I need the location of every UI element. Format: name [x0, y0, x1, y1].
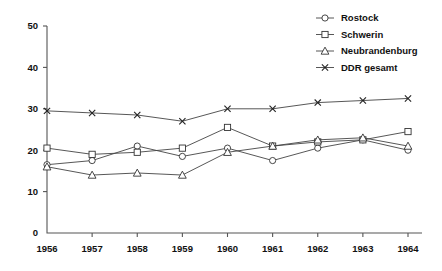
data-point-circle — [179, 153, 185, 159]
x-axis-tick-label: 1963 — [352, 243, 373, 254]
data-point-circle — [270, 157, 276, 163]
x-axis-tick-label: 1960 — [217, 243, 238, 254]
x-axis-tick-label: 1961 — [262, 243, 284, 254]
series-line — [47, 98, 408, 121]
x-axis-tick-label: 1956 — [36, 243, 57, 254]
x-axis-tick-labels: 195619571958195919601961196219631964 — [36, 243, 419, 254]
legend-item-schwerin: Schwerin — [316, 29, 383, 40]
data-point-circle — [134, 143, 140, 149]
data-point-triangle — [133, 169, 141, 176]
data-point-square — [179, 145, 185, 151]
chart-container: 01020304050 1956195719581959196019611962… — [0, 0, 442, 271]
legend-item-ddr-gesamt: DDR gesamt — [316, 62, 398, 73]
data-point-circle — [89, 157, 95, 163]
y-axis-tick-label: 40 — [27, 62, 38, 73]
y-axis-tick-labels: 01020304050 — [27, 20, 38, 238]
x-axis-ticks — [92, 233, 408, 237]
data-point-circle — [315, 145, 321, 151]
data-point-square — [405, 128, 411, 134]
legend-marker-square — [322, 31, 328, 37]
legend-label: Neubrandenburg — [341, 45, 418, 56]
x-axis-tick-label: 1959 — [172, 243, 193, 254]
series-ddr-gesamt — [44, 95, 411, 124]
chart-series-layer — [43, 95, 412, 178]
legend-label: DDR gesamt — [341, 62, 398, 73]
data-point-square — [89, 151, 95, 157]
legend-label: Schwerin — [341, 29, 383, 40]
legend-item-rostock: Rostock — [316, 12, 379, 23]
legend-label: Rostock — [341, 12, 379, 23]
series-line — [47, 138, 408, 175]
data-point-square — [44, 145, 50, 151]
legend-item-neubrandenburg: Neubrandenburg — [316, 45, 418, 56]
data-point-square — [224, 124, 230, 130]
y-axis-tick-label: 20 — [27, 145, 38, 156]
x-axis-tick-label: 1958 — [127, 243, 148, 254]
chart-axes — [47, 26, 422, 233]
x-axis-tick-label: 1964 — [397, 243, 419, 254]
axis-lines — [47, 26, 422, 233]
y-axis-tick-label: 30 — [27, 103, 38, 114]
y-axis-tick-label: 10 — [27, 186, 38, 197]
x-axis-tick-label: 1957 — [82, 243, 103, 254]
chart-legend: RostockSchwerinNeubrandenburgDDR gesamt — [316, 12, 418, 73]
data-point-square — [134, 149, 140, 155]
x-axis-tick-label: 1962 — [307, 243, 328, 254]
line-chart: 01020304050 1956195719581959196019611962… — [0, 0, 442, 271]
y-axis-tick-label: 50 — [27, 20, 38, 31]
y-axis-tick-label: 0 — [33, 227, 38, 238]
legend-marker-circle — [322, 15, 328, 21]
